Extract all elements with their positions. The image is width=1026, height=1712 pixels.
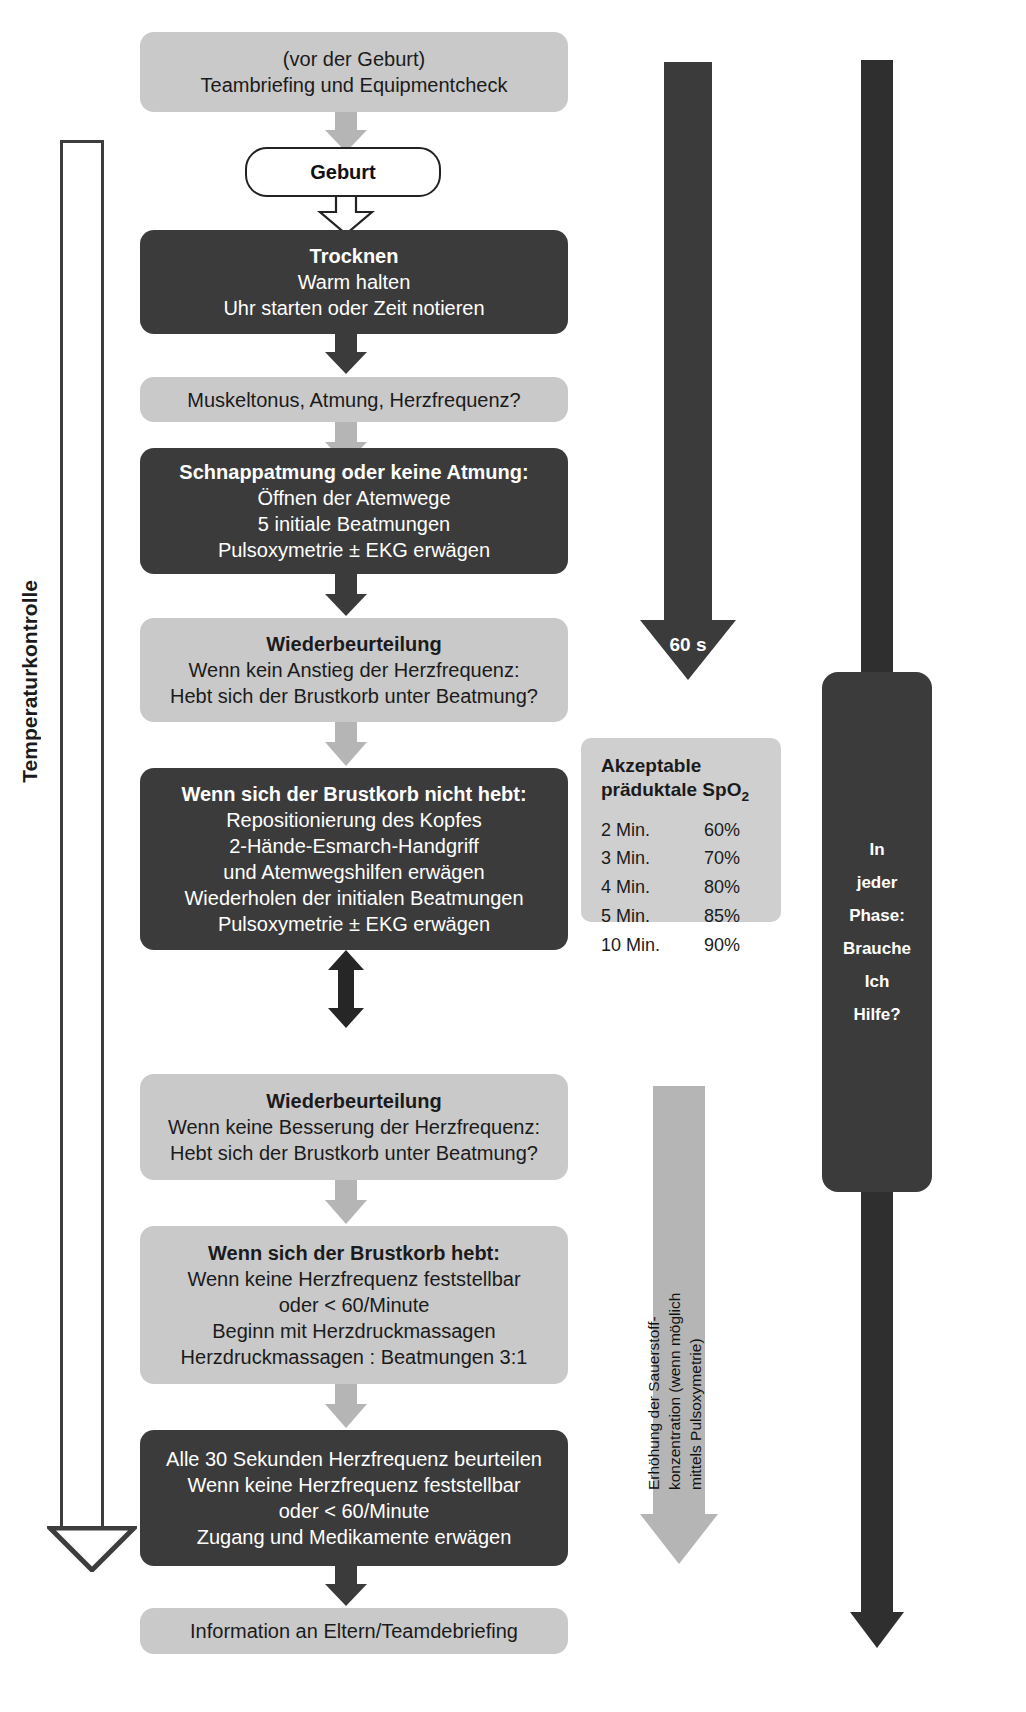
- help-line-4: Brauche: [843, 932, 911, 965]
- help-line-3: Phase:: [849, 899, 905, 932]
- arrow-head: [325, 352, 367, 374]
- node-chest-rising-line-5: Herzdruckmassagen : Beatmungen 3:1: [181, 1344, 528, 1370]
- spo2-target-panel: Akzeptable präduktale SpO2 2 Min.60%3 Mi…: [581, 738, 781, 922]
- node-gasping: Schnappatmung oder keine Atmung: Öffnen …: [140, 448, 568, 574]
- arrow-shaft: [335, 334, 357, 354]
- node-dry: Trocknen Warm halten Uhr starten oder Ze…: [140, 230, 568, 334]
- node-gasping-line-1: Schnappatmung oder keine Atmung:: [179, 459, 528, 485]
- node-chest-rising-line-3: oder < 60/Minute: [279, 1292, 430, 1318]
- node-chest-rising-line-2: Wenn keine Herzfrequenz feststellbar: [187, 1266, 520, 1292]
- arrow-shaft: [335, 1566, 357, 1586]
- node-dry-line-2: Warm halten: [298, 269, 411, 295]
- arrow-shaft: [335, 722, 357, 744]
- oxygen-label-line-1: Erhöhung der Sauerstoff-: [645, 1316, 662, 1490]
- flow-arrow-7: [316, 1180, 376, 1224]
- help-line-1: In: [869, 833, 884, 866]
- sixty-seconds-arrow: [640, 62, 736, 682]
- arrow-shaft: [335, 1180, 357, 1202]
- oxygen-label-line-3: mittels Pulsoxymetrie): [687, 1338, 704, 1490]
- flow-arrow-1: [316, 112, 376, 150]
- spo2-title-line-2: präduktale SpO: [601, 779, 741, 800]
- sixty-seconds-label: 60 s: [640, 634, 736, 656]
- spo2-table-row: 2 Min.60%: [601, 816, 740, 845]
- flow-arrow-bidirectional: [312, 950, 380, 1028]
- node-birth-label: Geburt: [310, 159, 376, 185]
- spo2-time-cell: 2 Min.: [601, 816, 704, 845]
- spo2-title-line-1: Akzeptable: [601, 755, 701, 776]
- node-reassess-1-line-1: Wiederbeurteilung: [266, 631, 441, 657]
- help-line-5: Ich: [865, 965, 890, 998]
- temperature-control-label: Temperaturkontrolle: [18, 580, 42, 783]
- spo2-value-cell: 60%: [704, 816, 740, 845]
- node-chest-not-rising-line-3: 2-Hände-Esmarch-Handgriff: [229, 833, 479, 859]
- help-line-2: jeder: [857, 866, 898, 899]
- flow-arrow-9: [316, 1566, 376, 1608]
- node-reassess-1: Wiederbeurteilung Wenn kein Anstieg der …: [140, 618, 568, 722]
- arrow-head: [325, 1584, 367, 1606]
- spo2-table-row: 4 Min.80%: [601, 873, 740, 902]
- oxygen-label-line-2: konzentration (wenn möglich: [666, 1293, 683, 1490]
- node-every-30s-line-2: Wenn keine Herzfrequenz feststellbar: [187, 1472, 520, 1498]
- spo2-time-cell: 5 Min.: [601, 902, 704, 931]
- help-bar-arrow-head: [850, 1612, 904, 1648]
- node-assess-1-label: Muskeltonus, Atmung, Herzfrequenz?: [187, 387, 521, 413]
- node-chest-not-rising-line-4: und Atemwegshilfen erwägen: [223, 859, 484, 885]
- node-chest-rising-line-1: Wenn sich der Brustkorb hebt:: [208, 1240, 500, 1266]
- arrow-shaft: [335, 112, 357, 132]
- node-reassess-1-line-2: Wenn kein Anstieg der Herzfrequenz:: [189, 657, 520, 683]
- spo2-time-cell: 10 Min.: [601, 931, 704, 960]
- node-every-30s-line-1: Alle 30 Sekunden Herzfrequenz beurteilen: [166, 1446, 542, 1472]
- node-gasping-line-4: Pulsoxymetrie ± EKG erwägen: [218, 537, 490, 563]
- flow-arrow-8: [316, 1384, 376, 1428]
- oxygen-increase-label: Erhöhung der Sauerstoff- konzentration (…: [644, 1160, 706, 1490]
- node-every-30s-line-3: oder < 60/Minute: [279, 1498, 430, 1524]
- node-every-30s-line-4: Zugang und Medikamente erwägen: [197, 1524, 512, 1550]
- flow-arrow-6: [316, 722, 376, 766]
- spo2-value-cell: 80%: [704, 873, 740, 902]
- node-chest-not-rising-line-1: Wenn sich der Brustkorb nicht hebt:: [181, 781, 526, 807]
- temperature-arrow-shaft: [60, 140, 104, 1526]
- spo2-subscript: 2: [741, 789, 749, 804]
- node-reassess-1-line-3: Hebt sich der Brustkorb unter Beatmung?: [170, 683, 538, 709]
- node-reassess-2-line-3: Hebt sich der Brustkorb unter Beatmung?: [170, 1140, 538, 1166]
- help-question-box: In jeder Phase: Brauche Ich Hilfe?: [822, 672, 932, 1192]
- node-chest-not-rising-line-6: Pulsoxymetrie ± EKG erwägen: [218, 911, 490, 937]
- arrow-shaft: [335, 422, 357, 444]
- node-chest-not-rising: Wenn sich der Brustkorb nicht hebt: Repo…: [140, 768, 568, 950]
- sixty-arrow-shaft: [664, 62, 712, 622]
- node-every-30s: Alle 30 Sekunden Herzfrequenz beurteilen…: [140, 1430, 568, 1566]
- node-chest-not-rising-line-2: Repositionierung des Kopfes: [226, 807, 482, 833]
- arrow-head: [325, 1200, 367, 1224]
- arrow-head: [325, 742, 367, 766]
- node-reassess-2: Wiederbeurteilung Wenn keine Besserung d…: [140, 1074, 568, 1180]
- spo2-table-row: 3 Min.70%: [601, 844, 740, 873]
- node-chest-rising-line-4: Beginn mit Herzdruckmassagen: [212, 1318, 495, 1344]
- node-birth: Geburt: [245, 147, 441, 197]
- temperature-arrow-head: [47, 1526, 137, 1572]
- spo2-table-row: 5 Min.85%: [601, 902, 740, 931]
- spo2-value-cell: 85%: [704, 902, 740, 931]
- node-prebirth-line-1: (vor der Geburt): [283, 46, 425, 72]
- spo2-value-cell: 90%: [704, 931, 740, 960]
- flow-arrow-3: [316, 334, 376, 374]
- node-chest-rising: Wenn sich der Brustkorb hebt: Wenn keine…: [140, 1226, 568, 1384]
- node-prebirth-line-2: Teambriefing und Equipmentcheck: [201, 72, 508, 98]
- spo2-time-cell: 4 Min.: [601, 873, 704, 902]
- node-gasping-line-2: Öffnen der Atemwege: [257, 485, 450, 511]
- node-chest-not-rising-line-5: Wiederholen der initialen Beatmungen: [184, 885, 523, 911]
- spo2-table-row: 10 Min.90%: [601, 931, 740, 960]
- node-prebirth: (vor der Geburt) Teambriefing und Equipm…: [140, 32, 568, 112]
- node-assess-1: Muskeltonus, Atmung, Herzfrequenz?: [140, 377, 568, 422]
- arrow-shaft: [335, 574, 357, 596]
- spo2-panel-title: Akzeptable präduktale SpO2: [601, 754, 763, 806]
- arrow-shaft: [335, 1384, 357, 1406]
- arrow-head: [325, 1404, 367, 1428]
- node-reassess-2-line-2: Wenn keine Besserung der Herzfrequenz:: [168, 1114, 540, 1140]
- node-dry-line-3: Uhr starten oder Zeit notieren: [223, 295, 484, 321]
- node-debriefing-label: Information an Eltern/Teamdebriefing: [190, 1618, 518, 1644]
- help-line-6: Hilfe?: [853, 998, 900, 1031]
- arrow-head: [325, 594, 367, 616]
- node-dry-line-1: Trocknen: [310, 243, 399, 269]
- flow-arrow-5: [316, 574, 376, 616]
- spo2-value-cell: 70%: [704, 844, 740, 873]
